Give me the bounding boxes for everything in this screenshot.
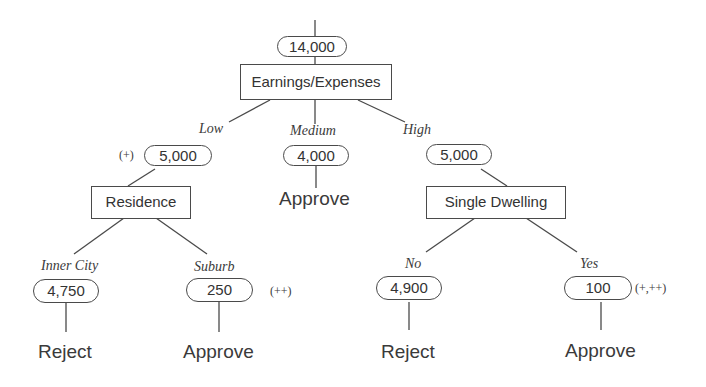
edge-label-yes: Yes: [580, 256, 598, 272]
edge-label-medium: Medium: [290, 123, 336, 139]
suburb-decision: Approve: [183, 341, 254, 363]
edge-label-low: Low: [199, 121, 223, 137]
high-count: 5,000: [426, 144, 492, 165]
no-decision: Reject: [381, 341, 435, 363]
edge-label-suburb: Suburb: [194, 259, 234, 275]
edge-label-high: High: [403, 122, 431, 138]
low-count: 5,000: [144, 145, 212, 166]
no-count: 4,900: [376, 276, 442, 300]
single-dwelling-split-node: Single Dwelling: [426, 186, 566, 219]
residence-split-node: Residence: [91, 186, 191, 219]
medium-count: 4,000: [283, 145, 349, 166]
root-count: 14,000: [277, 36, 347, 57]
yes-mark: (+,++): [635, 281, 666, 296]
edge-label-no: No: [405, 256, 421, 272]
edge-label-inner-city: Inner City: [41, 258, 98, 274]
low-mark: (+): [119, 148, 134, 163]
suburb-count: 250: [186, 278, 253, 302]
inner-city-decision: Reject: [38, 341, 92, 363]
yes-decision: Approve: [565, 340, 636, 362]
suburb-mark: (++): [270, 284, 292, 299]
inner-city-count: 4,750: [33, 279, 99, 303]
medium-decision: Approve: [279, 188, 350, 210]
decision-tree-diagram: 14,000 Earnings/Expenses Low Medium High…: [0, 0, 706, 387]
yes-count: 100: [564, 276, 632, 300]
root-split-node: Earnings/Expenses: [240, 64, 392, 100]
